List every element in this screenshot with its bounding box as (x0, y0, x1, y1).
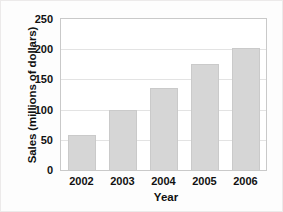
x-axis-label: Year (61, 191, 271, 203)
bar (191, 64, 219, 170)
x-tick-label: 2004 (147, 175, 181, 187)
bar (68, 135, 96, 170)
x-tick-label: 2002 (65, 175, 99, 187)
y-tick-label: 0 (13, 164, 53, 176)
y-axis-label: Sales (millions of dollars) (26, 10, 38, 180)
y-tick-label: 150 (13, 73, 53, 85)
bar (109, 110, 137, 170)
x-tick-label: 2006 (229, 175, 263, 187)
bar (150, 88, 178, 170)
bar-series (61, 19, 266, 170)
y-tick-label: 50 (13, 134, 53, 146)
y-tick-label: 250 (13, 13, 53, 25)
x-tick-label: 2005 (188, 175, 222, 187)
x-axis-tick-labels: 20022003200420052006 (61, 175, 266, 187)
bar-chart-figure: Sales (millions of dollars) 050100150200… (0, 0, 283, 212)
y-tick-label: 200 (13, 43, 53, 55)
x-tick-label: 2003 (106, 175, 140, 187)
y-tick-label: 100 (13, 104, 53, 116)
bar (232, 48, 260, 170)
